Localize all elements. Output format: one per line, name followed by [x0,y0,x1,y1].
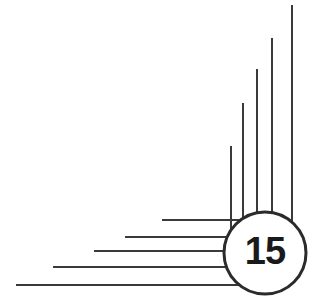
badge-number-label: 15 [245,230,286,272]
ornament-svg: 15 [0,0,313,308]
figure-canvas: 15 [0,0,313,308]
